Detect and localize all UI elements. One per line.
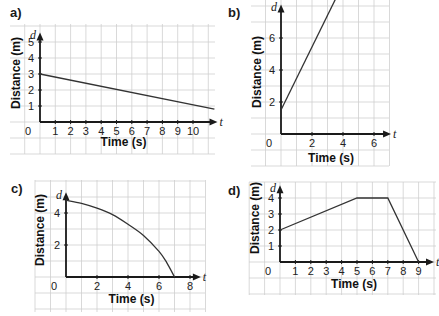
origin-label: 0 (265, 265, 271, 277)
x-tick-label: 5 (354, 265, 360, 277)
x-tick-label: 9 (416, 265, 422, 277)
x-tick-label: 6 (369, 265, 375, 277)
distance-time-chart-d: td12345678912340Time (s)Distance (m) (0, 0, 439, 316)
y-tick-label: 1 (268, 240, 274, 252)
y-axis-arrow-icon (277, 185, 284, 193)
y-axis-title: Distance (m) (248, 182, 262, 254)
x-tick-label: 2 (308, 265, 314, 277)
x-tick-label: 7 (385, 265, 391, 277)
x-tick-label: 4 (339, 265, 345, 277)
x-axis-title: Time (s) (331, 277, 377, 291)
y-tick-label: 2 (268, 224, 274, 236)
y-tick-label: 3 (268, 208, 274, 220)
x-tick-label: 1 (292, 265, 298, 277)
x-tick-label: 3 (323, 265, 329, 277)
y-tick-label: 4 (268, 192, 274, 204)
x-axis-arrow-icon (426, 259, 434, 266)
x-tick-label: 8 (400, 265, 406, 277)
